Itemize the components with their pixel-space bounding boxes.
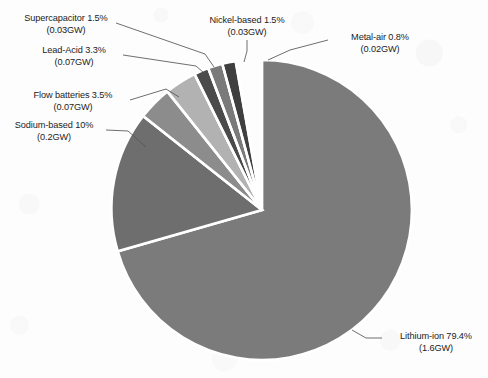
callout-label-lead-acid-line1: Lead-Acid 3.3% — [22, 44, 126, 56]
callout-label-lithium-ion: Lithium-ion 79.4% (1.6GW) — [386, 330, 486, 355]
leader-line-lead-acid — [123, 55, 204, 73]
leader-line-metal-air — [268, 40, 328, 60]
leader-line-nickel-based — [244, 40, 247, 62]
callout-label-supercapacitor-line2: (0.03GW) — [6, 24, 126, 36]
callout-label-sodium-based-line1: Sodium-based 10% — [0, 119, 108, 131]
callout-label-nickel-based: Nickel-based 1.5% (0.03GW) — [192, 14, 302, 39]
callout-label-metal-air-line1: Metal-air 0.8% — [332, 31, 428, 43]
callout-label-sodium-based-line2: (0.2GW) — [0, 131, 108, 143]
pie-chart-figure: Supercapacitor 1.5% (0.03GW) Lead-Acid 3… — [0, 0, 488, 378]
callout-label-flow-batteries-line1: Flow batteries 3.5% — [14, 89, 132, 101]
callout-label-metal-air: Metal-air 0.8% (0.02GW) — [332, 31, 428, 56]
callout-label-supercapacitor: Supercapacitor 1.5% (0.03GW) — [6, 12, 126, 37]
callout-label-lithium-ion-line1: Lithium-ion 79.4% — [386, 330, 486, 342]
callout-label-sodium-based: Sodium-based 10% (0.2GW) — [0, 119, 108, 144]
callout-label-nickel-based-line1: Nickel-based 1.5% — [192, 14, 302, 26]
leader-line-lithium-ion — [352, 330, 382, 338]
callout-label-lead-acid: Lead-Acid 3.3% (0.07GW) — [22, 44, 126, 69]
callout-label-metal-air-line2: (0.02GW) — [332, 43, 428, 55]
pie-slices — [111, 60, 411, 360]
callout-label-supercapacitor-line1: Supercapacitor 1.5% — [6, 12, 126, 24]
callout-label-flow-batteries: Flow batteries 3.5% (0.07GW) — [14, 89, 132, 114]
callout-label-flow-batteries-line2: (0.07GW) — [14, 101, 132, 113]
callout-label-lithium-ion-line2: (1.6GW) — [386, 342, 486, 354]
callout-label-nickel-based-line2: (0.03GW) — [192, 26, 302, 38]
callout-label-lead-acid-line2: (0.07GW) — [22, 56, 126, 68]
